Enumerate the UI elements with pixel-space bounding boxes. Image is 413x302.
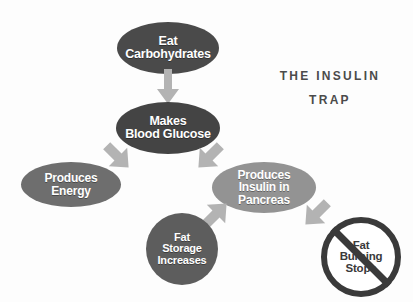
node-produces-insulin-line-3: Pancreas	[237, 194, 290, 206]
node-fat-storage-line-3: Increases	[158, 255, 207, 266]
diagram-title-line-2: TRAP	[258, 94, 402, 106]
diagram-title: THE INSULIN TRAP	[258, 70, 402, 106]
node-produces-energy-line-2: Energy	[44, 185, 97, 197]
arrow-down-right-icon-glucose-to-insulin	[192, 141, 226, 173]
node-makes-blood-glucose-line-2: Blood Glucose	[125, 128, 211, 141]
node-fat-burning-stops[interactable]: Fat Burning Stops	[321, 217, 401, 297]
node-fat-burning-stops-line-3: Stops	[340, 263, 383, 275]
node-produces-insulin-line-2: Insulin in	[237, 181, 290, 193]
node-fat-storage-line-2: Storage	[158, 243, 207, 254]
arrow-down-icon-carb-to-glucose	[156, 69, 180, 105]
node-fat-storage-increases[interactable]: Fat Storage Increases	[146, 213, 218, 285]
node-produces-energy[interactable]: Produces Energy	[21, 162, 121, 207]
diagram-canvas: THE INSULIN TRAP Eat Carbohydrates Makes…	[0, 0, 413, 302]
node-eat-carbohydrates-line-2: Carbohydrates	[125, 48, 211, 61]
diagram-title-line-1: THE INSULIN	[280, 69, 381, 83]
arrow-down-right-icon-insulin-to-fat-burning	[299, 198, 333, 230]
node-eat-carbohydrates[interactable]: Eat Carbohydrates	[117, 22, 219, 74]
node-produces-energy-line-1: Produces	[44, 172, 97, 184]
